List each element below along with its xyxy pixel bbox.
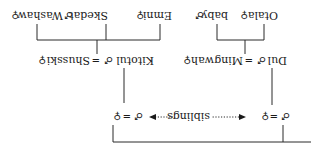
equals-sign: = [92, 55, 100, 66]
name-shusski: Shusski [46, 54, 90, 67]
name-kitotul: Kitotul [116, 54, 154, 67]
name-mingwah: Mingwah [191, 54, 243, 67]
female-symbol: ♀ [39, 55, 46, 66]
male-symbol: ♂ [281, 111, 290, 122]
arrow-left-icon [239, 114, 246, 120]
name-dul: Dul [267, 54, 287, 67]
male-symbol: ♂ [64, 10, 73, 21]
male-symbol: ♂ [134, 111, 143, 122]
gen2-kitotul-shusski: Kitotul ♂ = Shusski ♀ [39, 54, 154, 67]
male-symbol: ♂ [257, 55, 266, 66]
name-emni: Emni [142, 9, 172, 22]
siblings-relation: siblings [149, 110, 246, 123]
gen3-dul-children: Otala ♀ baby ♂ [195, 9, 278, 22]
equals-sign: = [123, 111, 131, 122]
name-washaw: Washaw [17, 9, 63, 22]
equals-sign: = [245, 55, 253, 66]
gen3-kitotul-children: Emni ♀ Skedat ♂ Washaw ♀ [12, 9, 172, 22]
female-symbol: ♀ [184, 55, 191, 66]
arrow-right-icon [149, 114, 156, 120]
kitotul-children-bracket [37, 24, 160, 54]
female-symbol: ♀ [114, 111, 121, 122]
kinship-diagram: ♂ = ♀ siblings ♂ = ♀ Dul ♂ = Mingwah ♀ [0, 0, 311, 148]
male-symbol: ♂ [195, 10, 204, 21]
female-symbol: ♀ [262, 111, 269, 122]
name-otala: Otala [247, 9, 278, 22]
female-symbol: ♀ [241, 10, 248, 21]
gen1-left-couple: ♂ = ♀ [262, 111, 290, 122]
gen1-right-couple: ♂ = ♀ [114, 111, 143, 122]
kinship-diagram-svg: ♂ = ♀ siblings ♂ = ♀ Dul ♂ = Mingwah ♀ [0, 0, 311, 148]
name-skedat: Skedat [69, 9, 108, 22]
dul-children-bracket [217, 24, 264, 54]
gen1-connector [113, 125, 311, 142]
name-baby: baby [200, 9, 228, 22]
equals-sign: = [270, 111, 278, 122]
gen2-dul-mingwah: Dul ♂ = Mingwah ♀ [184, 54, 287, 67]
female-symbol: ♀ [137, 10, 144, 21]
siblings-label: siblings [167, 110, 210, 123]
female-symbol: ♀ [12, 10, 19, 21]
male-symbol: ♂ [104, 55, 113, 66]
